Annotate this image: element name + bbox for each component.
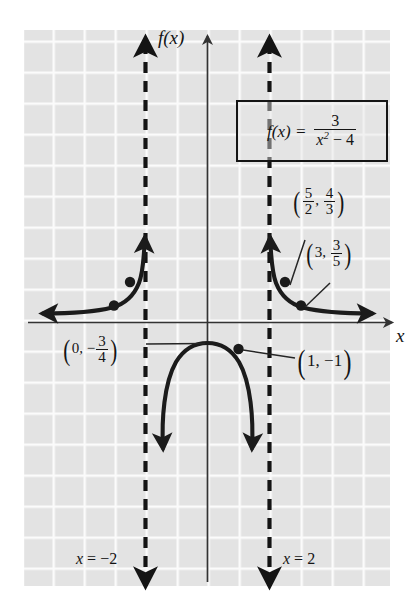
equation-denominator: x2 − 4 [314, 129, 356, 149]
point-label-5-2-4-3: (52, 43) [292, 186, 346, 218]
point-dot-3-0.6 [296, 300, 306, 310]
equation-text: f(x) = 3 x2 − 4 [238, 102, 386, 160]
graph-canvas [0, 0, 416, 610]
asymptote-label-right: x = 2 [283, 551, 315, 567]
equation-lhs: f(x) = [267, 123, 306, 140]
point-label-3-3-5: (3, 35) [305, 238, 353, 270]
paren-close: ) [338, 190, 345, 214]
point-dot-neg-3-0.6 [109, 300, 119, 310]
equation-box: f(x) = 3 x2 − 4 [236, 100, 388, 162]
point-label-1-neg-1: (1, −1) [296, 348, 353, 375]
x-axis-label: x [396, 326, 404, 345]
asymptote-label-left: x = −2 [76, 551, 117, 567]
point-dot-neg-2.5-1.33 [125, 277, 135, 287]
figure-container: f(x) x f(x) = 3 x2 − 4 (52, 43) (3, 35) … [0, 0, 416, 610]
y-axis-label: f(x) [158, 28, 184, 47]
paren-close: ) [345, 242, 352, 266]
paren-close: ) [110, 338, 117, 362]
point-dot-2.5-1.33 [280, 277, 290, 287]
paren-close: ) [344, 348, 352, 375]
equation-numerator: 3 [314, 113, 356, 129]
point-label-0-neg-3-4: (0, −34) [62, 334, 118, 366]
leader-line-0-neg-3-4 [146, 344, 205, 345]
paren-open: ( [63, 338, 70, 362]
point-dot-1-neg-1 [233, 344, 243, 354]
equation-fraction: 3 x2 − 4 [314, 113, 356, 149]
paren-open: ( [298, 348, 306, 375]
paren-open: ( [306, 242, 313, 266]
paren-open: ( [293, 190, 300, 214]
